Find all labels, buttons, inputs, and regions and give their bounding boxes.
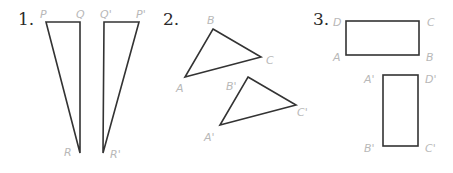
vertex-label-b-prime: B'	[226, 80, 237, 93]
vertex-label-p-prime: P'	[136, 8, 146, 21]
vertex-label-r-prime: R'	[110, 148, 121, 161]
vertex-label-q-prime: Q'	[100, 8, 112, 21]
triangle-abc	[185, 29, 261, 77]
triangle-pqr-prime	[103, 22, 139, 153]
vertex-label-a-rect: A	[332, 51, 341, 64]
vertex-label-b: B	[207, 14, 215, 27]
vertex-label-p: P	[40, 8, 47, 21]
vertex-label-a: A	[175, 82, 184, 95]
vertex-label-d-prime: D'	[425, 73, 437, 86]
triangle-pqr	[46, 22, 80, 153]
problem-number-3: 3.	[313, 9, 329, 29]
vertex-label-c-rect: C	[427, 16, 435, 29]
vertex-label-b-rect: B	[426, 51, 434, 64]
vertex-label-c-prime-rect: C'	[425, 142, 436, 155]
vertex-label-d: D	[333, 16, 341, 29]
problem-number-2: 2.	[163, 9, 179, 29]
vertex-label-q: Q	[76, 8, 85, 21]
rectangle-abcd	[346, 21, 419, 55]
transformations-diagram: 1. P Q R Q' P' R' 2. B C A B' C' A' 3. D…	[0, 0, 453, 173]
vertex-label-c: C	[266, 54, 274, 67]
vertex-label-r: R	[64, 146, 72, 159]
rectangle-abcd-prime	[383, 75, 418, 146]
vertex-label-c-prime: C'	[297, 106, 308, 119]
vertex-label-a-prime: A'	[203, 131, 215, 144]
problem-number-1: 1.	[18, 9, 34, 29]
vertex-label-a-prime-rect: A'	[363, 73, 375, 86]
vertex-label-b-prime-rect: B'	[364, 142, 375, 155]
